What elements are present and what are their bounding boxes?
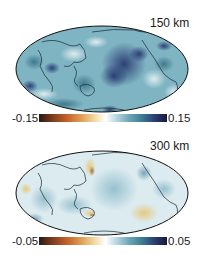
colorbar-min-label: -0.15: [12, 112, 38, 124]
colorbar-150km: -0.15 0.15: [0, 113, 202, 125]
mollweide-map-150km: [14, 24, 190, 114]
colorbar-gradient: [39, 114, 167, 122]
mollweide-map-300km: [14, 149, 190, 237]
colorbar-gradient: [39, 237, 167, 245]
colorbar-max-label: 0.05: [168, 235, 190, 247]
colorbar-min-label: -0.05: [12, 235, 38, 247]
colorbar-300km: -0.05 0.05: [0, 236, 202, 248]
panel-150km: 150 km: [0, 0, 202, 131]
colorbar-max-label: 0.15: [168, 112, 190, 124]
panel-300km: 300 km: [0, 131, 202, 262]
